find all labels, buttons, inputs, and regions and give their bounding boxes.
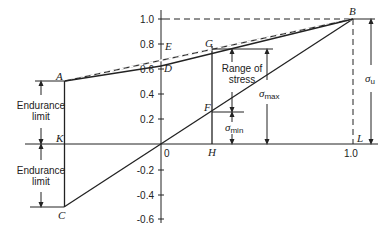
- point-B-label: B: [349, 5, 356, 17]
- y-tick-label: 0.8: [140, 39, 154, 50]
- y-tick-label: -0.6: [137, 214, 155, 225]
- y-tick-label: 0.2: [140, 114, 154, 125]
- endurance-limit-lower-label: Endurance: [17, 165, 66, 176]
- point-H-label: H: [207, 146, 217, 158]
- point-D-label: D: [163, 62, 172, 74]
- upper-solid-line: [161, 19, 353, 66]
- y-tick-label: -0.4: [137, 190, 155, 201]
- y-tick-label: -0.2: [137, 165, 155, 176]
- point-F-label: F: [203, 101, 211, 113]
- goodman-diagram: 1.0 0.8 0.6 0.4 0.2 -0.2 -0.4 -0.6 0 1.0: [0, 0, 385, 237]
- point-K-label: K: [55, 132, 64, 144]
- sigma-max-label: σmax: [259, 87, 280, 101]
- y-tick-label: 1.0: [140, 14, 154, 25]
- sigma-u-label: σu: [365, 72, 375, 86]
- leaders: [30, 19, 375, 207]
- x-end-label: 1.0: [344, 148, 358, 159]
- point-A-label: A: [55, 70, 63, 82]
- endurance-limit-upper-label: limit: [32, 111, 50, 122]
- range-of-stress-label: stress: [229, 74, 256, 85]
- sigma-min-label: σmin: [225, 121, 243, 135]
- endurance-limit-upper-label: Endurance: [17, 100, 66, 111]
- point-G-label: G: [205, 37, 213, 49]
- y-tick-label: 0.4: [140, 89, 154, 100]
- point-E-label: E: [164, 40, 172, 52]
- range-of-stress-label: Range of: [222, 63, 263, 74]
- point-C-label: C: [58, 209, 66, 221]
- origin-label: 0: [164, 148, 170, 159]
- point-L-label: L: [356, 132, 363, 144]
- endurance-limit-lower-label: limit: [32, 176, 50, 187]
